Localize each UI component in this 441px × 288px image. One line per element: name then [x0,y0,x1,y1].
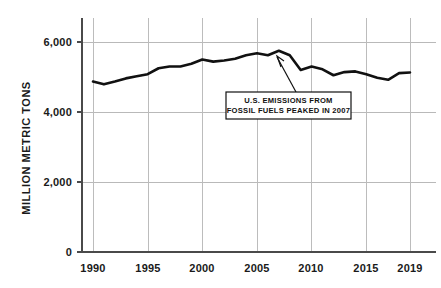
leader-arrowhead [277,56,284,67]
y-tick-label-0: 0 [66,246,72,258]
x-tick-label-2005: 2005 [244,262,269,274]
x-tick-label-1990: 1990 [80,262,105,274]
x-tick-label-2010: 2010 [298,262,323,274]
x-tick-label-2000: 2000 [189,262,214,274]
emissions-line-chart: 6,000 4,000 2,000 0 1990 1995 2000 2005 … [0,0,441,288]
x-tick-label-1995: 1995 [135,262,160,274]
y-tick-label-6000: 6,000 [43,36,72,48]
y-tick-label-4000: 4,000 [43,106,72,118]
annotation-line-2: FOSSIL FUELS PEAKED IN 2007 [227,106,351,115]
chart-figure: 6,000 4,000 2,000 0 1990 1995 2000 2005 … [0,0,441,288]
y-axis-tick-labels: 6,000 4,000 2,000 0 [43,36,72,258]
y-tick-marks [77,42,82,252]
annotation-callout: U.S. EMISSIONS FROM FOSSIL FUELS PEAKED … [226,92,351,119]
emissions-series-line [93,51,410,85]
annotation-line-1: U.S. EMISSIONS FROM [244,96,332,105]
x-axis-tick-labels: 1990 1995 2000 2005 2010 2015 2019 [80,262,422,274]
x-tick-label-2019: 2019 [397,262,422,274]
y-axis-title: MILLION METRIC TONS [20,81,32,214]
y-tick-label-2000: 2,000 [43,176,72,188]
x-tick-label-2015: 2015 [353,262,378,274]
